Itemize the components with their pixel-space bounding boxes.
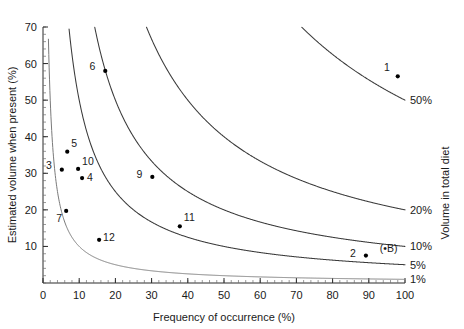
data-point-markers (60, 69, 400, 258)
y-tick-label: 60 (25, 58, 37, 70)
x-tick-label: 10 (73, 289, 85, 301)
x-axis-title: Frequency of occurrence (%) (153, 311, 295, 323)
data-point-label-3: 3 (46, 159, 52, 171)
y-tick-label: 20 (25, 204, 37, 216)
data-point-labels: 12345679101112 (46, 60, 390, 259)
data-point-label-7: 7 (56, 212, 62, 224)
x-tick-label: 100 (396, 289, 414, 301)
isopleth-label-50pct: 50% (410, 94, 432, 106)
data-point-label-10: 10 (82, 155, 94, 167)
y-tick-label: 70 (25, 21, 37, 33)
secondary-axis-title: Volume in total diet (439, 147, 451, 240)
y-tick-label: 30 (25, 167, 37, 179)
x-tick-label: 40 (182, 289, 194, 301)
isopleth-label-1pct: 1% (410, 273, 426, 285)
data-point-6 (103, 69, 107, 73)
data-point-label-9: 9 (136, 168, 142, 180)
data-point-1 (396, 74, 400, 78)
isopleth-curve-10pct (95, 27, 405, 246)
y-axis-title: Estimated volume when present (%) (6, 67, 18, 244)
x-tick-label: 70 (290, 289, 302, 301)
isopleth-label-5pct: 5% (410, 259, 426, 271)
y-axis-major-ticks (43, 27, 48, 246)
data-point-9 (150, 175, 154, 179)
isopleth-label-10pct: 10% (410, 240, 432, 252)
chart-canvas: 0102030405060708090100 10203040506070 1%… (0, 0, 464, 329)
data-point-label-4: 4 (87, 171, 93, 183)
y-tick-label: 50 (25, 94, 37, 106)
data-point-label-1: 1 (384, 61, 390, 73)
x-axis-tick-labels: 0102030405060708090100 (40, 289, 414, 301)
data-point-12 (97, 238, 101, 242)
y-tick-label: 10 (25, 240, 37, 252)
isopleth-curve-20pct (147, 27, 405, 210)
data-point-label-11: 11 (184, 211, 195, 223)
x-tick-label: 90 (363, 289, 375, 301)
data-point-10 (76, 167, 80, 171)
extra-annotation-labels: (•B) (380, 242, 398, 254)
data-point-2 (364, 253, 368, 257)
data-point-5 (65, 150, 69, 154)
data-point-7 (64, 209, 68, 213)
data-point-11 (178, 224, 182, 228)
isopleth-curve-1pct (48, 39, 405, 279)
x-tick-label: 20 (109, 289, 121, 301)
isopleth-label-20pct: 20% (410, 204, 432, 216)
costello-diet-chart: 0102030405060708090100 10203040506070 1%… (0, 0, 464, 329)
x-tick-label: 80 (326, 289, 338, 301)
data-point-3 (60, 168, 64, 172)
annotation-label-0: (•B) (380, 242, 398, 254)
data-point-label-6: 6 (89, 60, 95, 72)
data-point-label-12: 12 (103, 231, 115, 243)
data-point-4 (80, 176, 84, 180)
isopleth-curves (48, 27, 405, 279)
x-tick-label: 0 (40, 289, 46, 301)
y-axis-tick-labels: 10203040506070 (25, 21, 37, 252)
x-tick-label: 50 (218, 289, 230, 301)
data-point-label-2: 2 (350, 247, 356, 259)
x-tick-label: 30 (145, 289, 157, 301)
x-tick-label: 60 (254, 289, 266, 301)
data-point-label-5: 5 (71, 137, 77, 149)
y-tick-label: 40 (25, 131, 37, 143)
isopleth-labels: 1%5%10%20%50% (410, 94, 432, 285)
